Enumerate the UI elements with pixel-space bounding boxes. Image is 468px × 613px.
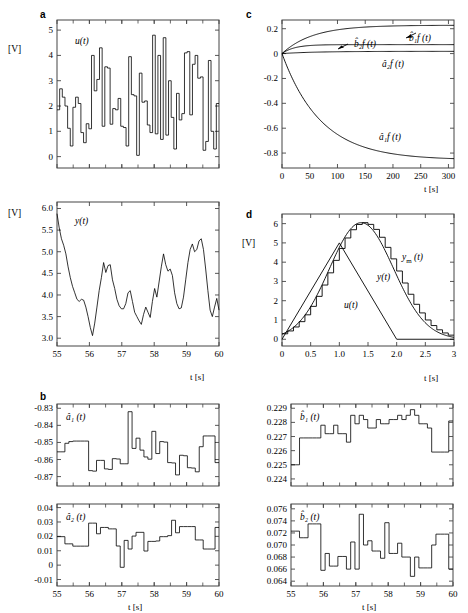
- y-ticks-d: 0123456: [274, 219, 455, 345]
- arrowhead-b2f: [338, 45, 344, 49]
- svg-text:57: 57: [117, 589, 127, 599]
- curve-label-yd: y(t): [376, 272, 390, 283]
- x-axis-label-c: t [s]: [424, 184, 438, 194]
- panel-letter-b: b: [40, 391, 46, 402]
- curve-label-a2f: â₂f (t): [382, 59, 404, 70]
- svg-text:4: 4: [274, 257, 279, 267]
- x-axis-label-d: t [s]: [424, 373, 438, 383]
- panel-a-u: a [V] 012345 u(t): [0, 0, 234, 188]
- svg-text:200: 200: [386, 171, 400, 181]
- svg-text:0.068: 0.068: [267, 552, 288, 562]
- svg-text:100: 100: [331, 171, 345, 181]
- svg-text:-0.01: -0.01: [34, 575, 53, 585]
- svg-text:0.5: 0.5: [305, 349, 317, 359]
- svg-text:5: 5: [49, 25, 54, 35]
- svg-text:60: 60: [215, 349, 225, 359]
- svg-text:55: 55: [287, 589, 297, 599]
- svg-text:5.0: 5.0: [42, 247, 54, 257]
- y-ticks-a-y: 3.03.54.04.55.05.56.0: [42, 203, 219, 343]
- unit-label-d: [V]: [242, 238, 255, 248]
- svg-text:0.01: 0.01: [37, 546, 53, 556]
- svg-text:1.0: 1.0: [334, 349, 346, 359]
- panel-c: c -0.8-0.6-0.4-0.200.2 05010015020025030…: [234, 0, 468, 198]
- svg-text:60: 60: [449, 589, 459, 599]
- svg-text:59: 59: [182, 589, 192, 599]
- svg-text:-0.87: -0.87: [34, 472, 53, 482]
- svg-text:4.5: 4.5: [42, 268, 54, 278]
- svg-text:0.228: 0.228: [267, 417, 288, 427]
- svg-text:2.5: 2.5: [420, 349, 432, 359]
- x-axis-label-a-y: t [s]: [190, 372, 204, 382]
- svg-text:2: 2: [274, 296, 279, 306]
- svg-text:3.0: 3.0: [42, 333, 54, 343]
- curve-label-b1f: b̂₁f (t): [409, 31, 431, 44]
- data-curve-y: [57, 214, 219, 336]
- unit-label-a: [V]: [8, 44, 21, 54]
- x-axis-label-b-a2: t [s]: [128, 602, 142, 612]
- panel-d-svg: d [V] 0123456 00.51.01.52.02.53 ym (t) y…: [234, 198, 468, 388]
- svg-text:3: 3: [49, 76, 54, 86]
- svg-text:-0.4: -0.4: [264, 98, 279, 108]
- svg-text:250: 250: [414, 171, 428, 181]
- panel-b-b1-svg: 0.2240.2250.2260.2270.2280.229 b̂₁ (t): [234, 388, 468, 500]
- svg-text:3: 3: [452, 349, 457, 359]
- curve-label-ym: ym (t): [401, 252, 423, 265]
- svg-text:3: 3: [274, 276, 279, 286]
- svg-text:-0.2: -0.2: [264, 73, 278, 83]
- data-curve-u: [57, 35, 219, 155]
- svg-text:2: 2: [49, 101, 54, 111]
- svg-text:0.229: 0.229: [267, 403, 288, 413]
- svg-text:0.074: 0.074: [267, 516, 288, 526]
- panel-b-a1: b -0.87-0.86-0.85-0.84-0.83 â₁ (t): [0, 388, 234, 500]
- unit-label-ay: [V]: [8, 208, 21, 218]
- panel-a-y-svg: [V] 3.03.54.04.55.05.56.0 555657585960 y…: [0, 188, 234, 388]
- svg-text:57: 57: [351, 589, 361, 599]
- svg-text:0: 0: [274, 334, 279, 344]
- svg-text:0.02: 0.02: [37, 531, 53, 541]
- svg-text:0.072: 0.072: [267, 528, 287, 538]
- curve-label-a1: â₁ (t): [66, 412, 85, 423]
- svg-text:60: 60: [215, 589, 225, 599]
- svg-text:-0.8: -0.8: [264, 148, 279, 158]
- svg-text:-0.86: -0.86: [34, 455, 53, 465]
- panel-b-b2-svg: 0.0640.0660.0680.0700.0720.0740.076 5556…: [234, 500, 468, 613]
- svg-text:0.224: 0.224: [267, 474, 288, 484]
- svg-text:5.5: 5.5: [42, 225, 54, 235]
- svg-text:56: 56: [85, 349, 95, 359]
- svg-text:0: 0: [274, 49, 279, 59]
- y-ticks-b-a2: -0.0100.010.020.030.04: [34, 503, 219, 585]
- svg-text:56: 56: [85, 589, 95, 599]
- curve-label-b2: b̂₂ (t): [300, 510, 319, 523]
- curve-label-a2: â₂ (t): [66, 512, 85, 523]
- svg-text:-0.85: -0.85: [34, 437, 53, 447]
- x-axis-label-b-b2: t [s]: [362, 602, 376, 612]
- svg-text:4: 4: [49, 50, 54, 60]
- svg-text:58: 58: [150, 349, 160, 359]
- svg-text:0.225: 0.225: [267, 460, 288, 470]
- svg-text:1.5: 1.5: [362, 349, 374, 359]
- curve-label-a1f: â₁f (t): [379, 132, 401, 143]
- svg-text:1: 1: [49, 126, 54, 136]
- svg-text:0: 0: [280, 349, 285, 359]
- svg-text:56: 56: [319, 589, 329, 599]
- svg-text:55: 55: [53, 349, 63, 359]
- svg-text:5: 5: [274, 238, 279, 248]
- svg-text:150: 150: [358, 171, 372, 181]
- svg-text:0.070: 0.070: [267, 540, 288, 550]
- panel-b-a1-svg: b -0.87-0.86-0.85-0.84-0.83 â₁ (t): [0, 388, 234, 500]
- data-curve-b2: [291, 514, 453, 576]
- panel-b-a2-svg: -0.0100.010.020.030.04 555657585960 â₂ (…: [0, 500, 234, 613]
- curve-label-b2f: b̂₂f (t): [354, 37, 376, 50]
- svg-text:3.5: 3.5: [42, 312, 54, 322]
- y-ticks-b-b2: 0.0640.0660.0680.0700.0720.0740.076: [267, 504, 453, 586]
- svg-text:55: 55: [53, 589, 63, 599]
- svg-text:0.03: 0.03: [37, 517, 53, 527]
- svg-text:0.04: 0.04: [37, 503, 53, 513]
- panel-a-u-svg: a [V] 012345 u(t): [0, 0, 234, 188]
- data-curves-d: [282, 223, 454, 340]
- svg-text:0.076: 0.076: [267, 504, 288, 514]
- panel-letter-c: c: [246, 9, 252, 20]
- x-ticks-d: 00.51.01.52.02.53: [280, 214, 457, 359]
- svg-text:59: 59: [416, 589, 426, 599]
- panel-letter-a: a: [40, 9, 46, 20]
